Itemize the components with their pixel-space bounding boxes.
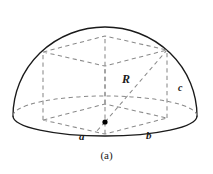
dome-base-back-arc: [13, 96, 197, 116]
side-c-label: c: [178, 83, 182, 93]
center-point-marker: [102, 119, 107, 124]
figure-caption: (a): [0, 150, 213, 161]
radius-line: [105, 50, 167, 122]
side-b-label: b: [146, 130, 152, 141]
inscribed-box: [43, 36, 167, 134]
side-a-label: a: [79, 131, 85, 142]
radius-label: R: [122, 73, 130, 85]
figure-container: R a b c (a): [0, 0, 213, 174]
